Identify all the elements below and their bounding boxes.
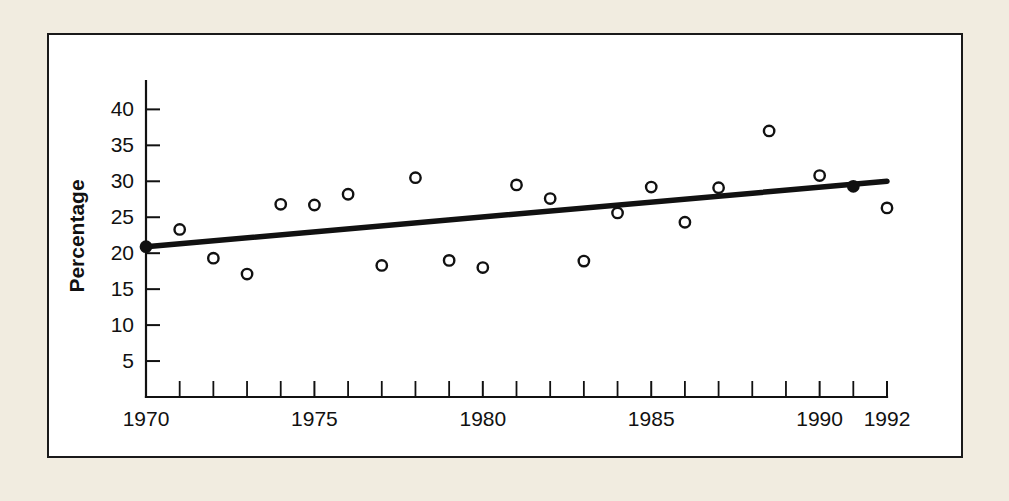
data-point xyxy=(882,203,892,213)
data-point xyxy=(444,255,454,265)
data-point xyxy=(343,189,353,199)
data-point xyxy=(276,199,286,209)
data-point xyxy=(612,208,622,218)
trend-endpoint-marker xyxy=(848,181,858,191)
data-point xyxy=(410,172,420,182)
data-point xyxy=(545,193,555,203)
figure-panel: 510152025303540197019751980198519901992P… xyxy=(47,33,963,458)
data-point xyxy=(377,260,387,270)
x-tick-label-1985: 1985 xyxy=(628,407,675,430)
data-point xyxy=(713,183,723,193)
y-tick-label-10: 10 xyxy=(111,313,134,336)
data-point xyxy=(511,180,521,190)
data-point xyxy=(814,170,824,180)
y-tick-label-30: 30 xyxy=(111,169,134,192)
y-axis-title: Percentage xyxy=(65,179,88,292)
y-tick-label-25: 25 xyxy=(111,205,134,228)
data-point xyxy=(579,256,589,266)
y-tick-label-15: 15 xyxy=(111,277,134,300)
data-point xyxy=(764,126,774,136)
data-point xyxy=(478,262,488,272)
x-tick-label-1975: 1975 xyxy=(291,407,338,430)
y-tick-label-5: 5 xyxy=(122,349,134,372)
data-point xyxy=(174,224,184,234)
data-point xyxy=(646,182,656,192)
x-tick-label-1980: 1980 xyxy=(459,407,506,430)
x-tick-label-1992: 1992 xyxy=(864,407,911,430)
x-tick-label-1990: 1990 xyxy=(796,407,843,430)
x-tick-label-1970: 1970 xyxy=(123,407,170,430)
scatter-chart: 510152025303540197019751980198519901992P… xyxy=(49,35,961,456)
data-point xyxy=(242,269,252,279)
data-point xyxy=(309,200,319,210)
data-point xyxy=(208,253,218,263)
y-tick-label-40: 40 xyxy=(111,97,134,120)
y-tick-label-35: 35 xyxy=(111,133,134,156)
trend-endpoint-marker xyxy=(141,242,151,252)
y-tick-label-20: 20 xyxy=(111,241,134,264)
data-point xyxy=(680,217,690,227)
